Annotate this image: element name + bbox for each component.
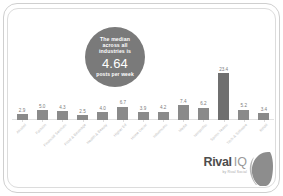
infographic-card: The median across all industries is 4.64…	[0, 0, 283, 196]
bar-9[interactable]: 6.2	[198, 101, 209, 120]
bar-0[interactable]: 2.9	[17, 108, 28, 120]
bar-value-label: 3.4	[261, 107, 267, 112]
axis-tick	[203, 120, 204, 122]
bar-rect[interactable]	[198, 108, 209, 120]
bar-value-label: 7.4	[180, 99, 186, 104]
bar-7[interactable]: 4.2	[158, 105, 169, 120]
bar-rect[interactable]	[178, 105, 189, 120]
bar-rect[interactable]	[117, 107, 128, 120]
category-label-text: Nonprofits	[193, 123, 208, 138]
bar-value-label: 4.0	[99, 106, 105, 111]
category-label-text: Media	[178, 123, 188, 133]
bar-rect[interactable]	[138, 112, 149, 120]
bar-value-label: 2.9	[19, 108, 25, 113]
bar-rect[interactable]	[258, 113, 269, 120]
axis-tick	[183, 120, 184, 122]
bar-4[interactable]: 4.0	[97, 106, 108, 120]
axis-tick	[163, 120, 164, 122]
bar-value-label: 2.5	[79, 109, 85, 114]
bar-8[interactable]: 7.4	[178, 99, 189, 120]
bar-5[interactable]: 6.7	[117, 100, 128, 120]
bar-2[interactable]: 4.3	[57, 105, 68, 120]
bar-rect[interactable]	[238, 110, 249, 120]
axis-tick	[143, 120, 144, 122]
corner-swoosh-decoration	[247, 151, 275, 187]
axis-tick	[224, 120, 225, 122]
category-label-text: Retail	[259, 123, 269, 133]
category-label-text: Food & Beverage	[64, 123, 87, 146]
bar-10[interactable]: 23.4	[218, 67, 229, 120]
callout-line-3: industries is	[99, 48, 131, 54]
bar-value-label: 5.0	[39, 104, 45, 109]
bar-rect[interactable]	[218, 73, 229, 120]
axis-tick	[103, 120, 104, 122]
axis-tick	[244, 120, 245, 122]
bar-value-label: 23.4	[219, 67, 228, 72]
category-label-text: Home Decor	[130, 123, 148, 141]
bar-value-label: 4.2	[160, 105, 166, 110]
bar-rect[interactable]	[97, 112, 108, 120]
bar-value-label: 6.2	[200, 101, 206, 106]
bar-rect[interactable]	[158, 112, 169, 120]
bar-value-label: 5.2	[241, 103, 247, 108]
rival-iq-logo: Rival IQ by Rival Social	[203, 155, 247, 174]
bar-1[interactable]: 5.0	[37, 104, 48, 120]
axis-tick	[264, 120, 265, 122]
bar-chart: 2.95.04.32.54.06.73.94.27.46.223.45.23.4	[12, 60, 274, 120]
bar-6[interactable]: 3.9	[138, 106, 149, 120]
axis-tick	[83, 120, 84, 122]
category-label-text: Fashion	[35, 123, 47, 135]
axis-tick	[123, 120, 124, 122]
bar-11[interactable]: 5.2	[238, 103, 249, 120]
axis-tick	[22, 120, 23, 122]
category-label-text: Tech & Software	[226, 123, 248, 145]
category-label-text: Influencers	[152, 123, 168, 139]
logo-wordmark: Rival	[203, 155, 231, 169]
category-label-text: Higher Ed	[113, 123, 128, 138]
bar-12[interactable]: 3.4	[258, 107, 269, 120]
category-label-text: Financial Services	[43, 123, 67, 147]
axis-tick	[42, 120, 43, 122]
bar-value-label: 4.3	[59, 105, 65, 110]
bar-value-label: 6.7	[120, 100, 126, 105]
bar-3[interactable]: 2.5	[77, 109, 88, 120]
logo-mark: IQ	[234, 155, 247, 169]
category-label-text: Alcohol	[15, 123, 27, 135]
axis-tick	[62, 120, 63, 122]
category-label-text: Health & Beauty	[86, 123, 108, 145]
bar-rect[interactable]	[57, 111, 68, 120]
logo-tagline: by Rival Social	[203, 170, 247, 174]
bar-value-label: 3.9	[140, 106, 146, 111]
category-label-text: Sports Teams	[209, 123, 228, 142]
bar-rect[interactable]	[37, 110, 48, 120]
